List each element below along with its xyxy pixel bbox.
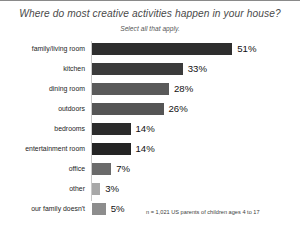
- bar: [92, 63, 183, 75]
- bar-row: bedrooms14%: [0, 120, 300, 140]
- bar-category-label: our family doesn't: [0, 204, 85, 213]
- bar-category-label: bedrooms: [0, 124, 85, 133]
- plot-area: family/living room51%kitchen33%dining ro…: [0, 39, 300, 204]
- bar-value-label: 14%: [136, 143, 155, 155]
- bar-category-label: other: [0, 184, 85, 193]
- bar-row: entertainment room14%: [0, 140, 300, 160]
- bar-category-label: outdoors: [0, 104, 85, 113]
- bar-value-label: 5%: [111, 203, 125, 215]
- bar-value-label: 26%: [169, 103, 188, 115]
- bar-value-label: 3%: [105, 183, 119, 195]
- bar: [92, 43, 232, 55]
- bar-category-label: dining room: [0, 84, 85, 93]
- bar-row: family/living room51%: [0, 40, 300, 60]
- bar: [92, 123, 131, 135]
- sample-size-note: n = 1,021 US parents of children ages 4 …: [146, 209, 260, 215]
- bar-row: outdoors26%: [0, 100, 300, 120]
- bar-category-label: kitchen: [0, 64, 85, 73]
- bar: [92, 83, 169, 95]
- bar: [92, 203, 106, 215]
- bar-category-label: office: [0, 164, 85, 173]
- bar-value-label: 33%: [188, 63, 207, 75]
- bar-value-label: 51%: [237, 43, 256, 55]
- bar-row: office7%: [0, 160, 300, 180]
- bar: [92, 183, 100, 195]
- bar: [92, 163, 111, 175]
- chart-subtitle: Select all that apply.: [0, 25, 300, 32]
- bar-row: dining room28%: [0, 80, 300, 100]
- chart-container: Where do most creative activities happen…: [0, 0, 300, 234]
- bar-value-label: 7%: [116, 163, 130, 175]
- bar-value-label: 14%: [136, 123, 155, 135]
- bar-category-label: entertainment room: [0, 144, 85, 153]
- bar-value-label: 28%: [174, 83, 193, 95]
- bar: [92, 143, 131, 155]
- bar-row: kitchen33%: [0, 60, 300, 80]
- bar-row: other3%: [0, 180, 300, 200]
- bar-category-label: family/living room: [0, 44, 85, 53]
- bar: [92, 103, 164, 115]
- chart-title: Where do most creative activities happen…: [0, 8, 300, 19]
